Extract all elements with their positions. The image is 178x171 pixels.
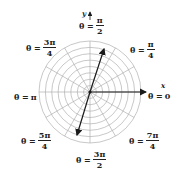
label-theta-pi-over-4: θ = π4 xyxy=(130,40,155,59)
label-theta-3pi-over-2: θ = 3π2 xyxy=(76,150,106,169)
x-axis-label: x xyxy=(161,81,165,90)
label-theta-0: θ = 0 xyxy=(148,92,170,100)
label-theta-7pi-over-4: θ = 7π4 xyxy=(129,131,159,150)
grid-ray xyxy=(65,48,91,92)
label-theta-pi-over-2: θ = π2 xyxy=(79,16,104,35)
origin-point xyxy=(88,90,91,93)
grid-ray xyxy=(46,67,90,93)
grid-ray xyxy=(65,92,91,136)
grid-ray xyxy=(90,92,116,136)
label-theta-pi: θ = π xyxy=(14,93,37,101)
label-theta-5pi-over-4: θ = 5π4 xyxy=(21,131,51,150)
ray-first-quadrant-arrow xyxy=(90,49,104,92)
label-theta-3pi-over-4: θ = 3π4 xyxy=(26,38,56,57)
grid-ray xyxy=(90,92,134,118)
